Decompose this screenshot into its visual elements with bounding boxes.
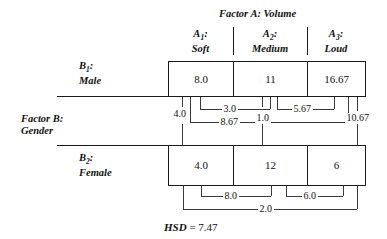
header-divider-soft-medium <box>233 27 234 55</box>
factor-b-title-line2: Gender <box>21 125 63 137</box>
hsd-statement: HSD = 7.47 <box>164 221 218 233</box>
bracket-8-0-left-stem <box>201 186 202 196</box>
hsd-value: 7.47 <box>198 221 217 233</box>
connector-loud-lower <box>357 124 358 145</box>
column-header-loud-label: Loud <box>307 43 365 54</box>
diff-label-female-soft-medium: 8.0 <box>223 191 239 201</box>
row-header-male-label: Male <box>79 75 101 87</box>
female-box-top <box>168 145 366 146</box>
diff-label-male-medium-loud: 5.67 <box>292 104 313 114</box>
column-header-soft-code: A1: <box>168 28 233 43</box>
diff-label-male-soft-medium: 3.0 <box>222 104 238 114</box>
bracket-6-0-right-stem <box>343 186 344 196</box>
row-header-male: B1: Male <box>79 60 101 87</box>
bracket-3-0-left-stem <box>200 97 201 109</box>
diff-label-female-medium-loud: 6.0 <box>302 191 318 201</box>
connector-soft-upper <box>182 97 183 107</box>
connector-loud-upper <box>357 97 358 111</box>
cell-female-loud: 6 <box>308 159 365 171</box>
cell-male-soft: 8.0 <box>169 73 233 85</box>
male-box-bottom <box>168 96 366 97</box>
factor-b-title-line1: Factor B: <box>21 113 63 125</box>
bracket-2-0-left-stem <box>183 186 184 209</box>
cell-male-medium: 11 <box>234 73 307 85</box>
connector-medium-upper <box>262 97 263 107</box>
diff-label-male-soft-loud: 8.67 <box>219 117 240 127</box>
row-header-male-code: B1: <box>79 60 101 75</box>
column-header-loud-code: A3: <box>307 28 365 43</box>
male-box-right <box>365 61 366 97</box>
bracket-8-67-left-stem <box>190 97 191 122</box>
female-row-left-rule <box>57 145 168 146</box>
factor-b-title: Factor B: Gender <box>21 113 63 137</box>
row-header-female-label: Female <box>79 167 112 179</box>
column-header-soft-label: Soft <box>168 43 233 54</box>
bracket-5-67-right-stem <box>334 97 335 109</box>
column-header-medium-code: A2: <box>233 28 307 43</box>
bracket-6-0-left-stem <box>286 186 287 196</box>
bracket-5-67-left-stem <box>277 97 278 109</box>
connector-medium-lower <box>262 124 263 145</box>
bracket-3-0-right-stem <box>270 97 271 109</box>
column-header-medium: A2: Medium <box>233 28 307 54</box>
column-header-medium-label: Medium <box>233 43 307 54</box>
male-box-top <box>168 61 366 62</box>
factor-a-title: Factor A: Volume <box>219 8 296 19</box>
hsd-equals: = <box>189 221 195 233</box>
column-header-loud: A3: Loud <box>307 28 365 54</box>
connector-soft-lower <box>182 124 183 145</box>
column-header-soft: A1: Soft <box>168 28 233 54</box>
diff-label-col-soft: 4.0 <box>172 109 188 119</box>
row-header-female-code: B2: <box>79 152 112 167</box>
hsd-comparison-figure: Factor A: Volume A1: Soft A2: Medium A3:… <box>0 0 387 239</box>
cell-female-medium: 12 <box>234 159 307 171</box>
female-box-bottom <box>168 185 366 186</box>
diff-label-col-medium: 1.0 <box>255 113 271 123</box>
female-box-right <box>365 145 366 186</box>
diff-label-female-soft-loud: 2.0 <box>258 204 274 214</box>
bracket-8-0-right-stem <box>271 186 272 196</box>
header-divider-medium-loud <box>307 27 308 55</box>
bracket-2-0-right-stem <box>357 186 358 209</box>
row-header-female: B2: Female <box>79 152 112 179</box>
cell-female-soft: 4.0 <box>169 159 233 171</box>
diff-label-col-loud: 10.67 <box>345 113 371 123</box>
male-row-left-rule <box>57 96 168 97</box>
hsd-label: HSD <box>164 221 187 233</box>
cell-male-loud: 16.67 <box>308 73 365 85</box>
